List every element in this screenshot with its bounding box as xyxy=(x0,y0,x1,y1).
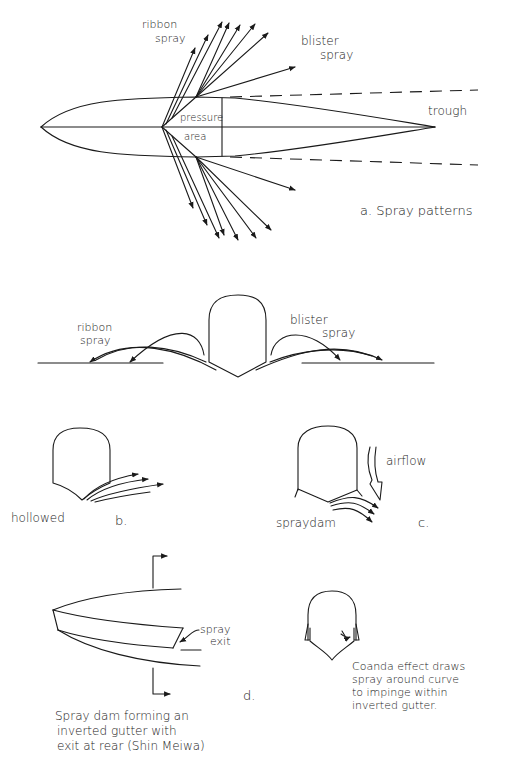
blister-spray-label-line2: spray xyxy=(320,48,353,62)
coanda-hull-section xyxy=(308,591,356,640)
panel-d-caption-line3: exit at rear (Shin Meiwa) xyxy=(57,739,205,753)
ribbon-spray-sheet-outer xyxy=(90,347,216,370)
cross-ribbon-label-line2: spray xyxy=(80,334,111,347)
pressure-area-label-line1: pressure xyxy=(180,112,223,123)
cross-ribbon-label-line1: ribbon xyxy=(77,321,112,334)
panel-d-inverted-gutter: spray exit d. Spray dam forming an inver… xyxy=(53,556,255,753)
hull-planform-bottom xyxy=(41,127,435,157)
ribbon-spray-sheet-right-inner xyxy=(270,350,372,362)
wake-dashed-lower xyxy=(230,157,478,165)
hull-deck-line xyxy=(53,589,181,610)
cross-blister-label-line1: blister xyxy=(290,313,328,327)
spray-pattern-diagram: ribbon spray blister spray pressure area… xyxy=(0,0,510,762)
gutter-exit-edge xyxy=(173,628,183,648)
hollowed-label: hollowed xyxy=(11,511,65,525)
wake-dashed-upper xyxy=(230,90,478,97)
panel-b-hollowed-hull: hollowed b. xyxy=(11,428,163,528)
section-marker-top xyxy=(153,556,167,588)
panel-d-letter: d. xyxy=(243,688,255,703)
panel-b-letter: b. xyxy=(115,513,127,528)
panel-c-letter: c. xyxy=(418,515,429,530)
coanda-effect-detail: Coanda effect draws spray around curve t… xyxy=(305,591,465,712)
panel-c-spray-dam: airflow spraydam c. xyxy=(276,426,429,530)
bow-edge xyxy=(53,610,58,630)
coanda-flow-arrow xyxy=(341,634,350,637)
ribbon-spray-sheet-inner xyxy=(96,347,206,362)
airflow-arrow-icon xyxy=(368,447,382,500)
gutter-top-line xyxy=(53,610,183,628)
dam-spray-3 xyxy=(333,508,372,522)
panel-d-caption-line2: inverted gutter with xyxy=(57,724,177,738)
spray-dam-chines xyxy=(295,489,362,502)
dam-spray-1 xyxy=(330,498,378,508)
airflow-label: airflow xyxy=(386,454,426,468)
panel-a-caption: a. Spray patterns xyxy=(360,203,472,218)
spraydam-label: spraydam xyxy=(276,516,336,530)
coanda-caption-line2: spray around curve xyxy=(352,673,459,686)
cross-blister-label-line2: spray xyxy=(322,326,355,340)
coanda-caption-line1: Coanda effect draws xyxy=(352,660,465,673)
blister-spray-label-line1: blister xyxy=(301,34,339,48)
cross-section-spray: ribbon spray blister spray xyxy=(38,295,434,377)
ribbon-spray-label-line1: ribbon xyxy=(142,18,177,31)
spray-exit-pointer xyxy=(180,630,199,642)
pressure-area-label-line2: area xyxy=(184,131,206,142)
ribbon-spray-label-line2: spray xyxy=(155,32,186,45)
coanda-gutters xyxy=(305,624,359,660)
hull-planform-top xyxy=(41,97,435,127)
dam-spray-2 xyxy=(331,503,374,514)
section-marker-bottom xyxy=(153,668,170,694)
hull-cross-section xyxy=(209,295,266,377)
spray-exit-label-line2: exit xyxy=(210,635,230,648)
spray-curve-4 xyxy=(95,492,150,502)
coanda-caption-line3: to impinge within xyxy=(352,686,448,699)
panel-a-spray-patterns: ribbon spray blister spray pressure area… xyxy=(41,18,478,240)
coanda-caption-line4: inverted gutter. xyxy=(352,699,437,712)
panel-d-caption-line1: Spray dam forming an xyxy=(55,709,189,723)
trough-label: trough xyxy=(428,104,467,118)
spray-dam-hull-section xyxy=(298,426,357,490)
hollowed-hull-section xyxy=(53,428,110,500)
